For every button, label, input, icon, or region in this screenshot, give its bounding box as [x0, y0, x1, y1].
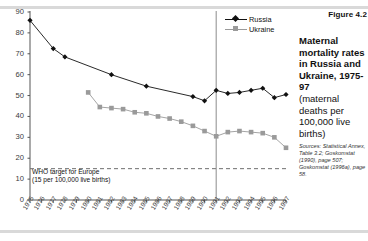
series-line-ukraine: [88, 92, 286, 147]
data-point-ukraine: [214, 134, 219, 139]
data-point-ukraine: [179, 119, 184, 124]
who-target-annotation: WHO target for Europe (15 per 100,000 li…: [32, 168, 110, 184]
data-point-ukraine: [156, 114, 161, 119]
data-point-russia: [144, 84, 149, 89]
data-point-ukraine: [249, 130, 254, 135]
data-point-russia: [283, 92, 288, 97]
data-point-ukraine: [109, 106, 114, 111]
legend-item-ukraine: Ukraine: [225, 24, 274, 34]
figure-sources: Sources: Statistical Annex, Table 3.2; G…: [299, 143, 367, 177]
chart-legend: Russia Ukraine: [225, 14, 274, 34]
data-point-russia: [109, 72, 114, 77]
y-tick-label: 30: [6, 132, 24, 141]
data-point-ukraine: [121, 107, 126, 112]
figure-number: Figure 4.2: [299, 10, 367, 19]
legend-label-ukraine: Ukraine: [249, 25, 274, 34]
data-point-ukraine: [191, 124, 196, 129]
data-point-russia: [190, 94, 195, 99]
caption-column: Figure 4.2 Maternal mortality rates in R…: [299, 10, 367, 177]
ukraine-marker-icon: [225, 25, 247, 34]
legend-label-russia: Russia: [249, 15, 272, 24]
russia-marker-icon: [225, 15, 247, 24]
y-tick-label: 90: [6, 7, 24, 16]
y-tick-label: 80: [6, 28, 24, 37]
figure-title: Maternal mortality rates in Russia and U…: [299, 35, 367, 93]
data-point-ukraine: [98, 105, 103, 110]
data-point-ukraine: [144, 111, 149, 116]
y-tick-label: 40: [6, 111, 24, 120]
data-point-russia: [225, 91, 230, 96]
data-point-russia: [248, 88, 253, 93]
y-tick-label: 10: [6, 174, 24, 183]
figure-subtitle: (maternal deaths per 100,000 live births…: [299, 93, 367, 139]
top-divider-rule: [0, 6, 368, 9]
data-point-ukraine: [86, 90, 91, 95]
legend-item-russia: Russia: [225, 14, 274, 24]
data-point-ukraine: [132, 110, 137, 115]
y-tick-label: 60: [6, 70, 24, 79]
y-tick-label: 70: [6, 49, 24, 58]
data-point-ukraine: [260, 131, 265, 136]
data-point-ukraine: [237, 129, 242, 134]
data-point-ukraine: [167, 116, 172, 121]
y-tick-label: 50: [6, 91, 24, 100]
data-point-ukraine: [202, 129, 207, 134]
data-point-ukraine: [226, 130, 231, 135]
y-tick-label: 20: [6, 153, 24, 162]
bottom-divider-rule: [0, 230, 368, 233]
data-point-russia: [237, 90, 242, 95]
y-tick-label: 0: [6, 195, 24, 204]
figure-container: 0102030405060708090197519761977197819791…: [0, 0, 368, 241]
data-point-ukraine: [284, 145, 289, 150]
data-point-ukraine: [272, 135, 277, 140]
